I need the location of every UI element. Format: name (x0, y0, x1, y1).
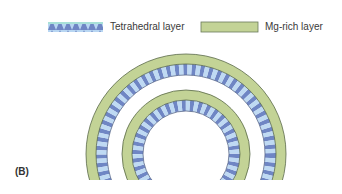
tetrahedral-layer-swatch (48, 22, 103, 32)
panel-label: (B) (15, 166, 29, 177)
nanotube-cross-section (86, 54, 286, 194)
outer-ring (86, 54, 286, 194)
mg-rich-layer-swatch (201, 22, 258, 32)
mg-rich-layer-label: Mg-rich layer (265, 21, 323, 32)
tetrahedral-layer-label: Tetrahedral layer (110, 21, 184, 32)
inner-ring (122, 90, 250, 194)
